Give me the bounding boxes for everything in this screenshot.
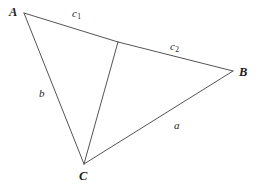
side-label-a: a: [174, 120, 180, 131]
segment-b: [24, 13, 84, 164]
side-label-c1: c1: [72, 8, 81, 21]
vertex-label-c: C: [79, 170, 88, 183]
vertex-label-b: B: [239, 66, 248, 79]
vertex-label-a: A: [9, 6, 18, 19]
segment-c1: [24, 13, 118, 42]
side-label-c2-subscript: 2: [175, 45, 179, 54]
side-label-c1-subscript: 1: [77, 12, 81, 21]
geometry-figure: A B C c1 c2 b a: [0, 0, 259, 188]
side-label-b: b: [39, 88, 45, 99]
side-label-c2: c2: [170, 41, 179, 54]
